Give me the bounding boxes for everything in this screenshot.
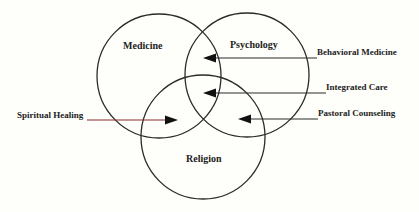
religion-label: Religion bbox=[186, 153, 222, 164]
behavioral-medicine-label: Behavioral Medicine bbox=[317, 47, 397, 57]
medicine-label: Medicine bbox=[123, 40, 162, 51]
pastoral-counseling-label: Pastoral Counseling bbox=[318, 108, 395, 118]
integrated-care-label: Integrated Care bbox=[326, 82, 388, 92]
pastoral-counseling-arrow bbox=[238, 115, 318, 124]
psychology-label: Psychology bbox=[230, 39, 278, 50]
spiritual-healing-label: Spiritual Healing bbox=[17, 110, 83, 120]
spiritual-healing-arrow bbox=[87, 116, 178, 125]
venn-diagram bbox=[0, 0, 419, 212]
behavioral-medicine-arrow bbox=[203, 54, 317, 63]
